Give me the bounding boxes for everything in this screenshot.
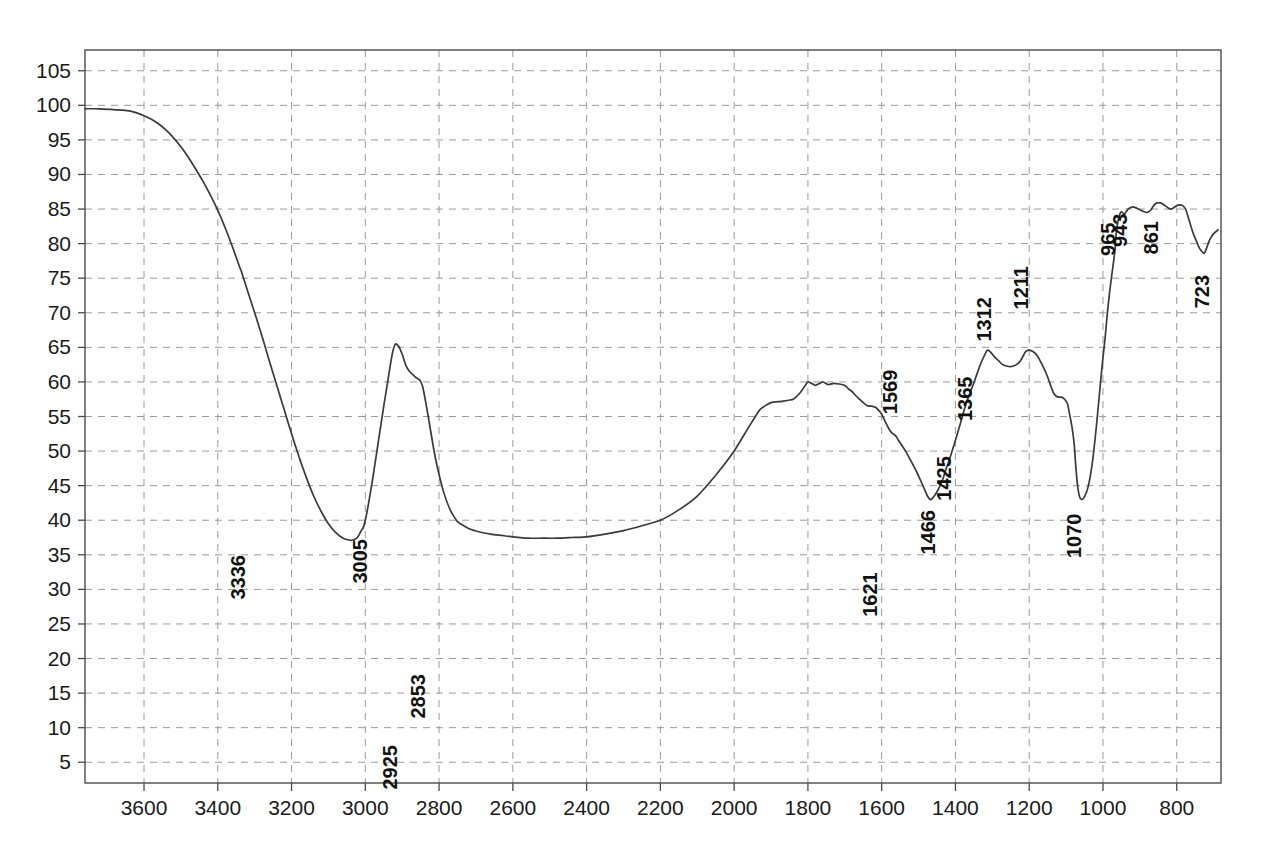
y-axis-tick-label: 100 <box>36 93 71 116</box>
peak-label-1211: 1211 <box>1010 266 1032 309</box>
x-axis-labels: 3600340032003000280026002400220020001800… <box>121 796 1195 819</box>
x-axis-tick-label: 1200 <box>1006 796 1053 819</box>
peak-label-1425: 1425 <box>933 456 955 501</box>
x-axis-tick-label: 3200 <box>268 796 315 819</box>
peak-label-1365: 1365 <box>954 377 976 422</box>
peak-label-861: 861 <box>1140 221 1162 254</box>
y-axis-tick-label: 30 <box>48 577 71 600</box>
peak-label-1569: 1569 <box>879 370 901 415</box>
y-axis-tick-label: 40 <box>48 508 71 531</box>
y-axis-tick-label: 15 <box>48 681 71 704</box>
y-axis-tick-label: 65 <box>48 335 71 358</box>
x-axis-tick-label: 2000 <box>711 796 758 819</box>
transmittance-curve <box>85 109 1218 541</box>
y-axis-tick-label: 70 <box>48 301 71 324</box>
y-axis-tick-label: 85 <box>48 197 71 220</box>
peak-labels: 3336300529252853162115691466142513651312… <box>227 214 1213 790</box>
spectrum-trace <box>85 109 1218 541</box>
spectrum-plot: 5101520253035404550556065707580859095100… <box>0 0 1267 848</box>
peak-label-1070: 1070 <box>1063 514 1085 559</box>
x-axis-tick-label: 2200 <box>637 796 684 819</box>
y-axis-tick-label: 45 <box>48 474 71 497</box>
y-axis-tick-label: 50 <box>48 439 71 462</box>
peak-label-1466: 1466 <box>917 510 939 555</box>
y-axis-tick-label: 90 <box>48 162 71 185</box>
y-axis-labels: 5101520253035404550556065707580859095100… <box>36 59 71 774</box>
x-axis-tick-label: 3000 <box>342 796 389 819</box>
peak-label-943: 943 <box>1109 214 1131 247</box>
y-axis-tick-label: 5 <box>59 750 71 773</box>
y-axis-tick-label: 35 <box>48 543 71 566</box>
x-axis-tick-label: 2400 <box>563 796 610 819</box>
y-axis-tick-label: 105 <box>36 59 71 82</box>
y-axis-tick-label: 80 <box>48 232 71 255</box>
y-axis-tick-label: 25 <box>48 612 71 635</box>
x-axis-tick-label: 1400 <box>932 796 979 819</box>
y-axis-tick-label: 10 <box>48 716 71 739</box>
x-axis-tick-label: 1800 <box>785 796 832 819</box>
peak-label-3336: 3336 <box>227 555 249 600</box>
axis-ticks <box>78 71 1177 791</box>
peak-label-1312: 1312 <box>973 297 995 342</box>
x-axis-tick-label: 1600 <box>858 796 905 819</box>
x-axis-tick-label: 2600 <box>489 796 536 819</box>
x-axis-tick-label: 2800 <box>416 796 463 819</box>
y-axis-tick-label: 55 <box>48 405 71 428</box>
grid-lines <box>85 50 1221 783</box>
ir-spectrum-chart: 5101520253035404550556065707580859095100… <box>0 0 1267 848</box>
x-axis-tick-label: 3600 <box>121 796 168 819</box>
peak-label-1621: 1621 <box>859 572 881 617</box>
y-axis-tick-label: 95 <box>48 128 71 151</box>
y-axis-tick-label: 60 <box>48 370 71 393</box>
peak-label-2925: 2925 <box>379 745 401 790</box>
peak-label-723: 723 <box>1191 275 1213 308</box>
x-axis-tick-label: 800 <box>1159 796 1194 819</box>
peak-label-3005: 3005 <box>349 539 371 584</box>
peak-label-2853: 2853 <box>407 674 429 719</box>
x-axis-tick-label: 3400 <box>194 796 241 819</box>
y-axis-tick-label: 20 <box>48 647 71 670</box>
y-axis-tick-label: 75 <box>48 266 71 289</box>
x-axis-tick-label: 1000 <box>1080 796 1127 819</box>
